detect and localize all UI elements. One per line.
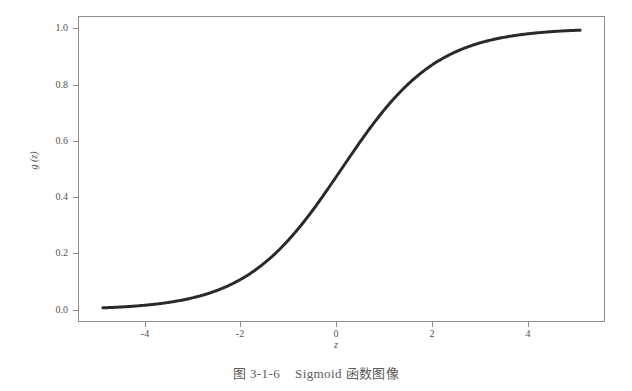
sigmoid-curve (79, 17, 604, 321)
ytick-label-1: 0.2 (28, 247, 68, 258)
ytick-mark-1 (73, 253, 78, 254)
xtick-label-3: 2 (412, 328, 452, 339)
ytick-mark-5 (73, 28, 78, 29)
figure-caption: 图 3-1-6Sigmoid 函数图像 (0, 363, 632, 382)
xtick-label-1: -2 (220, 328, 260, 339)
x-axis-label: z (316, 339, 356, 350)
ytick-label-4: 0.8 (28, 79, 68, 90)
figure-container: -4 -2 0 2 4 0.0 0.2 0.4 0.6 0.8 1.0 z g … (0, 0, 632, 391)
figure-title: Sigmoid 函数图像 (295, 366, 399, 381)
y-axis-label: g (z) (28, 121, 39, 201)
xtick-mark-4 (528, 322, 529, 327)
xtick-mark-1 (240, 322, 241, 327)
ytick-label-0: 0.0 (28, 304, 68, 315)
xtick-mark-3 (432, 322, 433, 327)
plot-area (78, 16, 605, 322)
ytick-mark-3 (73, 141, 78, 142)
xtick-mark-2 (336, 322, 337, 327)
ytick-mark-2 (73, 197, 78, 198)
ytick-mark-4 (73, 85, 78, 86)
ytick-label-5: 1.0 (28, 22, 68, 33)
figure-number: 图 3-1-6 (233, 366, 280, 381)
xtick-label-2: 0 (316, 328, 356, 339)
xtick-label-0: -4 (125, 328, 165, 339)
xtick-mark-0 (145, 322, 146, 327)
ytick-mark-0 (73, 310, 78, 311)
sigmoid-polyline (103, 30, 580, 308)
xtick-label-4: 4 (508, 328, 548, 339)
